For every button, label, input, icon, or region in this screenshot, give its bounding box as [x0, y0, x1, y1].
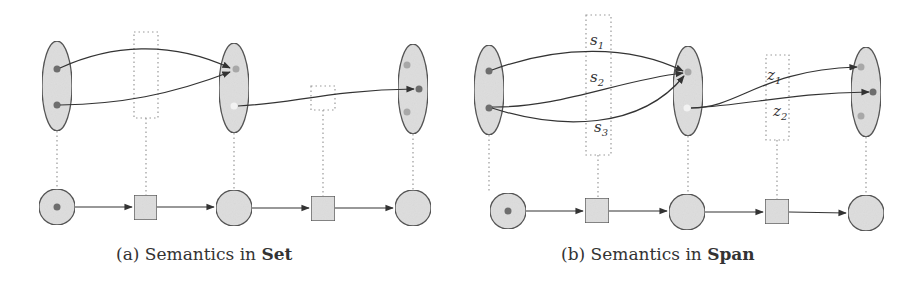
state-dot — [486, 68, 493, 75]
transition-square — [765, 199, 789, 224]
caption-b-bold: Span — [707, 244, 755, 264]
label-box — [311, 86, 335, 110]
caption-a-prefix: (a) Semantics in — [116, 244, 261, 264]
dotted-connectors — [489, 135, 866, 199]
label-z2: z2 — [772, 102, 787, 122]
state-circle — [216, 190, 252, 226]
panel-a — [39, 32, 431, 226]
state-dot — [684, 105, 691, 112]
caption-a-bold: Set — [261, 244, 292, 264]
state-dot — [858, 64, 865, 71]
state-dot — [54, 102, 61, 109]
state-circle — [848, 195, 884, 231]
state-dot — [404, 62, 411, 69]
label-s1: s1 — [590, 31, 604, 51]
set-ellipse — [673, 46, 703, 136]
set-ellipse — [219, 43, 249, 133]
state-dot — [685, 69, 692, 76]
state-circle — [669, 194, 705, 230]
transition-square — [585, 198, 609, 223]
label-box — [134, 32, 158, 118]
state-dot — [231, 103, 238, 110]
label-z1: z1 — [766, 66, 781, 86]
state-dot — [858, 113, 865, 120]
state-dot — [233, 66, 240, 73]
state-dot — [404, 109, 411, 116]
caption-b-prefix: (b) Semantics in — [561, 244, 707, 264]
state-dot — [54, 66, 61, 73]
state-dot — [486, 105, 493, 112]
caption-a: (a) Semantics in Set — [116, 244, 292, 264]
transition-square — [311, 196, 335, 221]
label-s3: s3 — [594, 118, 608, 138]
marked-dot — [54, 204, 61, 211]
set-ellipse — [42, 41, 72, 131]
state-circle — [395, 190, 431, 226]
marked-dot — [505, 208, 512, 215]
state-dot — [416, 86, 423, 93]
set-ellipse — [474, 45, 504, 135]
transition-square — [134, 195, 157, 220]
label-s2: s2 — [590, 68, 604, 88]
state-dot — [870, 89, 877, 96]
panel-b: s1 s2 s3 z1 z2 — [474, 15, 884, 231]
caption-b: (b) Semantics in Span — [561, 244, 755, 264]
